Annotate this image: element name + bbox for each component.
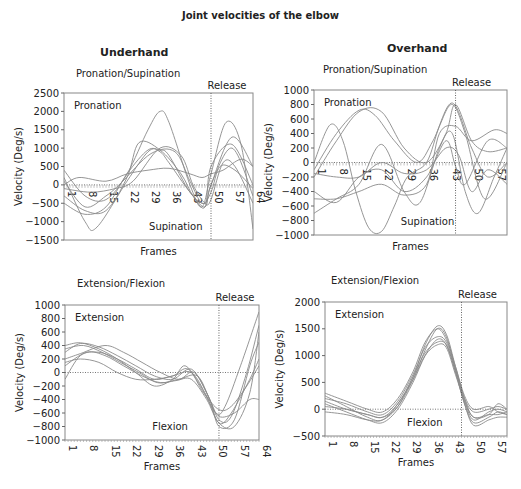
y-tick-label: −800 — [33, 421, 60, 432]
y-tick-label: 1000 — [35, 300, 60, 311]
series-line — [64, 148, 253, 214]
x-axis-label: Frames — [398, 457, 434, 468]
x-tick-label: 50 — [213, 191, 224, 204]
y-tick-label: 1000 — [295, 350, 320, 361]
y-tick-label: −500 — [32, 198, 59, 209]
x-tick-label: 15 — [110, 445, 121, 458]
series-line — [64, 111, 253, 229]
bottom-region-label: Flexion — [407, 417, 443, 428]
x-axis-label: Frames — [392, 241, 428, 252]
x-tick-label: 50 — [475, 441, 486, 454]
y-tick-label: 600 — [290, 114, 309, 125]
y-tick-label: 0 — [314, 404, 320, 415]
x-tick-label: 57 — [234, 191, 245, 204]
y-tick-label: 1500 — [34, 124, 59, 135]
y-tick-label: 400 — [41, 340, 60, 351]
y-tick-label: −200 — [282, 172, 309, 183]
y-axis-label: Velocity (Deg/s) — [13, 127, 24, 206]
x-tick-label: 22 — [390, 441, 401, 454]
y-tick-label: −400 — [282, 186, 309, 197]
x-tick-label: 1 — [67, 445, 78, 451]
y-tick-label: 600 — [41, 327, 60, 338]
y-tick-label: 0 — [54, 367, 60, 378]
x-axis-label: Frames — [144, 461, 180, 472]
y-tick-label: −600 — [33, 408, 60, 419]
y-tick-label: −1000 — [26, 435, 60, 446]
plot-area — [65, 305, 259, 440]
series-line — [325, 341, 507, 426]
top-region-label: Extension — [75, 312, 124, 323]
x-tick-label: 22 — [129, 191, 140, 204]
y-axis-label: Velocity (Deg/s) — [263, 123, 274, 202]
x-tick-label: 50 — [217, 445, 228, 458]
top-region-label: Pronation — [324, 97, 372, 108]
x-tick-label: 64 — [261, 445, 272, 458]
chart-underhand-extension: 10008006004002000−200−400−600−800−100018… — [14, 292, 272, 472]
x-tick-label: 29 — [406, 169, 417, 182]
bottom-region-label: Flexion — [152, 421, 188, 432]
plot-area — [64, 93, 253, 240]
series-line — [65, 352, 259, 424]
release-label: Release — [452, 77, 491, 88]
y-tick-label: 500 — [301, 377, 320, 388]
y-tick-label: 2500 — [34, 88, 59, 99]
x-tick-label: 1 — [327, 441, 338, 447]
y-tick-label: −400 — [33, 394, 60, 405]
top-region-label: Pronation — [74, 100, 122, 111]
x-tick-label: 36 — [433, 441, 444, 454]
y-tick-label: −1000 — [25, 216, 59, 227]
y-axis-label: Velocity (Deg/s) — [274, 329, 285, 408]
y-axis-label: Velocity (Deg/s) — [14, 333, 25, 412]
x-tick-label: 57 — [239, 445, 250, 458]
chart-underhand-pronation: 25002000150010005000−500−1000−1500181522… — [13, 80, 266, 257]
x-tick-label: 57 — [496, 441, 507, 454]
charts-canvas: 25002000150010005000−500−1000−1500181522… — [0, 0, 521, 489]
y-tick-label: 200 — [290, 143, 309, 154]
x-tick-label: 29 — [411, 441, 422, 454]
x-tick-label: 29 — [153, 445, 164, 458]
y-tick-label: 500 — [40, 161, 59, 172]
x-tick-label: 8 — [338, 169, 349, 175]
x-tick-label: 36 — [174, 445, 185, 458]
y-tick-label: −500 — [293, 431, 320, 442]
y-tick-label: 200 — [41, 354, 60, 365]
y-tick-label: 0 — [303, 157, 309, 168]
series-line — [325, 344, 507, 418]
y-tick-label: −600 — [282, 201, 309, 212]
release-label: Release — [215, 292, 254, 303]
x-tick-label: 8 — [348, 441, 359, 447]
x-axis-label: Frames — [140, 246, 176, 257]
y-tick-label: 2000 — [295, 297, 320, 308]
x-tick-label: 36 — [171, 191, 182, 204]
y-tick-label: 800 — [290, 99, 309, 110]
y-tick-label: 800 — [41, 313, 60, 324]
x-tick-label: 43 — [454, 441, 465, 454]
release-label: Release — [207, 80, 246, 91]
y-tick-label: −1000 — [275, 230, 309, 241]
y-tick-label: 1000 — [284, 85, 309, 96]
chart-overhand-pronation: 10008006004002000−200−400−600−800−100018… — [263, 77, 507, 252]
top-region-label: Extension — [335, 309, 384, 320]
y-tick-label: 0 — [53, 179, 59, 190]
series-line — [64, 159, 253, 185]
y-tick-label: 2000 — [34, 106, 59, 117]
x-tick-label: 22 — [131, 445, 142, 458]
y-tick-label: −1500 — [25, 235, 59, 246]
x-tick-label: 22 — [383, 169, 394, 182]
bottom-region-label: Supination — [149, 221, 202, 232]
release-label: Release — [458, 289, 497, 300]
x-tick-label: 29 — [150, 191, 161, 204]
y-tick-label: 1000 — [34, 143, 59, 154]
y-tick-label: 1500 — [295, 323, 320, 334]
x-tick-label: 15 — [369, 441, 380, 454]
chart-overhand-extension: 2000150010005000−5001815222936435057Rele… — [274, 289, 507, 468]
x-tick-label: 8 — [88, 445, 99, 451]
bottom-region-label: Supination — [401, 216, 454, 227]
y-tick-label: −800 — [282, 215, 309, 226]
x-tick-label: 43 — [196, 445, 207, 458]
y-tick-label: 400 — [290, 128, 309, 139]
y-tick-label: −200 — [33, 381, 60, 392]
series-line — [65, 312, 259, 415]
